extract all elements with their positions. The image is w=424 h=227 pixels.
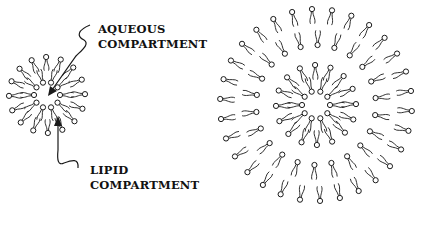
- lipid-tail: [373, 74, 384, 80]
- lipid-head-icon: [332, 45, 337, 50]
- lipid-tail: [397, 112, 409, 113]
- lipid-head-icon: [34, 85, 39, 90]
- lipid-molecule: [272, 152, 285, 168]
- lipid-molecule: [48, 105, 57, 121]
- lipid-tail: [334, 184, 338, 195]
- lipid-molecule: [295, 32, 303, 49]
- lipid-tail: [224, 119, 236, 120]
- lipid-molecule: [314, 130, 319, 147]
- lipid-tail: [47, 60, 49, 71]
- lipid-tail: [71, 95, 82, 97]
- lipid-tail: [70, 81, 80, 87]
- lipid-head-icon: [360, 64, 365, 69]
- lipid-molecule: [297, 185, 304, 202]
- lipid-molecule: [359, 22, 371, 38]
- lipid-head-icon: [318, 116, 323, 121]
- lipid-tail: [344, 18, 350, 29]
- lipid-molecule: [54, 57, 63, 73]
- lipid-head-icon: [45, 130, 50, 135]
- lipid-head-icon: [317, 198, 322, 203]
- lipid-molecule: [292, 111, 308, 124]
- lipid-tail: [20, 96, 31, 98]
- lipid-head-icon: [34, 100, 39, 105]
- lipid-head-icon: [295, 160, 300, 165]
- lipid-tail: [321, 186, 322, 198]
- lipid-head-icon: [330, 139, 335, 144]
- lipid-molecule: [254, 27, 267, 42]
- lipid-tail: [242, 113, 254, 116]
- lipid-tail: [287, 106, 299, 108]
- lipid-tail: [14, 103, 24, 109]
- lipid-tail: [274, 22, 278, 33]
- lipid-head-icon: [254, 109, 259, 114]
- lipid-molecule: [397, 108, 414, 114]
- lipid-head-icon: [309, 116, 314, 121]
- lipid-tail: [22, 111, 29, 120]
- aqueous-label-line1: AQUEOUS: [98, 22, 207, 37]
- lipid-molecule: [345, 154, 357, 170]
- lipid-head-icon: [314, 142, 319, 147]
- lipid-tail: [37, 110, 42, 120]
- lipid-tail: [23, 114, 32, 121]
- lipid-molecule: [315, 30, 320, 47]
- lipid-molecule: [305, 116, 314, 133]
- lipid-head-icon: [276, 88, 281, 93]
- lipid-tail: [294, 14, 298, 25]
- lipid-molecule: [57, 92, 73, 97]
- lipid-molecule: [309, 6, 315, 23]
- lipid-molecule: [290, 9, 298, 26]
- lipid-tail: [244, 46, 252, 55]
- lipid-head-icon: [387, 164, 392, 169]
- lipid-tail: [380, 155, 388, 164]
- lipid-molecule: [247, 126, 264, 136]
- lipid-molecule: [297, 66, 307, 83]
- lipid-tail: [243, 90, 255, 93]
- lipid-tail: [299, 185, 300, 197]
- lipid-tail: [338, 183, 340, 195]
- lipid-tail: [71, 102, 81, 107]
- lipid-head-icon: [367, 22, 372, 27]
- lipid-molecule: [358, 143, 373, 157]
- lipid-head-icon: [312, 162, 317, 167]
- lipid-molecule: [24, 100, 39, 112]
- lipid-molecule: [37, 69, 46, 85]
- lipid-head-icon: [232, 154, 237, 159]
- aqueous-compartment-label: AQUEOUS COMPARTMENT: [98, 22, 207, 52]
- lipid-head-icon: [349, 13, 354, 18]
- lipid-molecule: [277, 113, 294, 123]
- lipid-tail: [378, 114, 390, 115]
- lipid-tail: [282, 181, 288, 192]
- lipid-molecule: [68, 77, 84, 87]
- lipid-tail: [51, 69, 53, 80]
- lipid-molecule: [387, 141, 404, 152]
- lipid-tail: [341, 105, 353, 107]
- lipid-tail: [272, 156, 280, 165]
- lipid-tail: [279, 40, 284, 51]
- lipid-tail: [393, 73, 404, 78]
- lipid-tail: [63, 113, 72, 120]
- lipid-molecule: [332, 73, 346, 88]
- lipid-molecule: [18, 111, 32, 125]
- lipid-molecule: [377, 155, 392, 169]
- lipid-molecule: [271, 16, 282, 33]
- lipid-tail: [322, 78, 327, 89]
- lipid-molecule: [373, 35, 387, 49]
- lipid-molecule: [260, 172, 272, 188]
- lipid-head-icon: [302, 94, 307, 99]
- lipid-molecule: [292, 87, 308, 100]
- lipid-tail: [352, 44, 360, 53]
- lipid-tail: [259, 31, 267, 40]
- lipid-tail: [384, 54, 395, 59]
- lipid-head-icon: [40, 105, 45, 110]
- lipid-head-icon: [278, 192, 283, 197]
- lipid-head-icon: [17, 66, 22, 71]
- lipid-molecule: [333, 121, 348, 135]
- lipid-head-icon: [260, 182, 265, 187]
- lipid-tail: [24, 104, 34, 109]
- lipid-tail: [394, 129, 406, 131]
- lipid-tail: [44, 60, 46, 71]
- lipid-tail: [223, 115, 235, 118]
- lipid-head-icon: [282, 51, 287, 56]
- lipid-tail: [310, 12, 311, 24]
- lipid-tail: [53, 110, 58, 120]
